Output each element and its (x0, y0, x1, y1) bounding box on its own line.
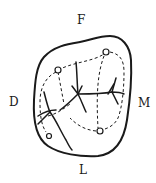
cusp-circle-distofacial (55, 67, 61, 73)
cusp-circle-distolingual (47, 134, 52, 139)
cusp-circle-mesiolingual (97, 128, 103, 134)
tooth-diagram (0, 0, 156, 183)
cusp-circle-mesiofacial (103, 49, 109, 55)
